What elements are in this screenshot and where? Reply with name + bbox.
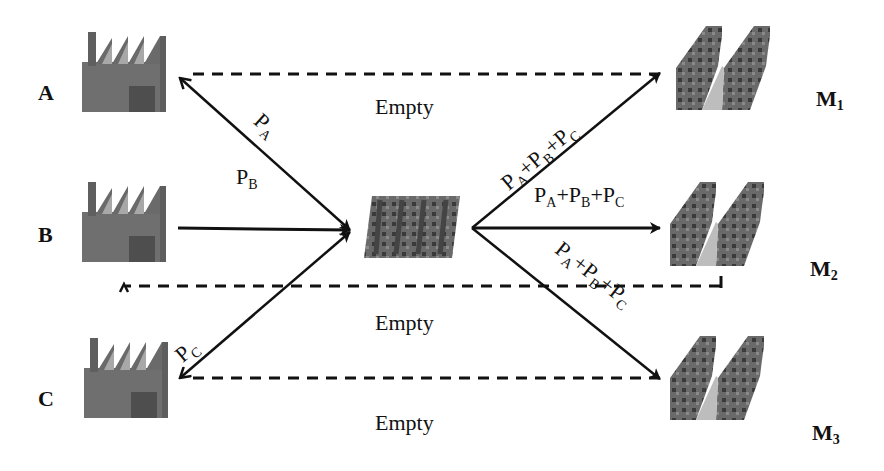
return-m1-label: Empty — [375, 94, 434, 120]
market-m2-label: M2 — [810, 256, 838, 284]
market-m2-icon — [670, 182, 764, 266]
warehouse-hub-icon — [364, 196, 460, 258]
flow-b-label: PB — [236, 164, 258, 193]
p-term-1: P — [534, 182, 546, 207]
market-m3-sub: 3 — [833, 432, 840, 447]
factory-a-icon — [82, 32, 166, 112]
market-m2-name: M — [810, 256, 831, 281]
market-m3-name: M — [812, 420, 833, 445]
return-m3-label: Empty — [375, 410, 434, 436]
market-m1-sub: 1 — [837, 98, 844, 113]
plus-2: + — [590, 182, 602, 207]
flow-hub-m2-label: PA+PB+PC — [534, 182, 624, 211]
market-m2-sub: 2 — [831, 268, 838, 283]
factory-c-icon — [84, 338, 168, 418]
sub-term-2: B — [581, 195, 590, 210]
market-m1-icon — [676, 26, 770, 110]
sub-term-1: A — [546, 195, 556, 210]
sub-term-3: C — [615, 195, 624, 210]
plus-1: + — [556, 182, 568, 207]
flow-c-to-hub — [180, 232, 350, 378]
market-m1-name: M — [816, 86, 837, 111]
supplier-a-label: A — [38, 80, 54, 106]
market-m3-icon — [670, 336, 764, 420]
flow-b-sub: B — [248, 177, 257, 192]
market-m1-label: M1 — [816, 86, 844, 114]
p-term-2: P — [569, 182, 581, 207]
supplier-b-label: B — [38, 222, 53, 248]
market-m3-label: M3 — [812, 420, 840, 448]
return-m2-label: Empty — [375, 310, 434, 336]
flow-b-p: P — [236, 164, 248, 189]
diagram-canvas — [0, 0, 884, 471]
p-term-3: P — [603, 182, 615, 207]
flow-a-to-hub — [180, 78, 350, 230]
factory-b-icon — [82, 182, 166, 262]
flow-b-to-hub — [178, 228, 350, 230]
supplier-c-label: C — [38, 386, 54, 412]
